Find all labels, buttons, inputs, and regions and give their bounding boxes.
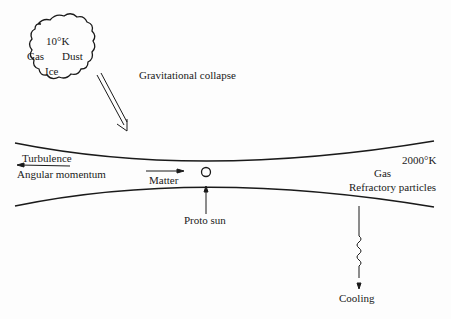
disk-gas-label: Gas [374, 168, 391, 179]
cloud-ice-label: Ice [45, 66, 58, 77]
cloud-dust-label: Dust [62, 51, 83, 62]
angular-momentum-label: Angular momentum [17, 169, 106, 180]
cloud-gas-label: Gas [27, 51, 44, 62]
matter-label: Matter [149, 175, 178, 186]
proto-sun-pointer-icon [204, 186, 208, 214]
disk-temperature-label: 2000°K [402, 155, 436, 166]
cloud-temperature-label: 10°K [46, 36, 69, 47]
gravitational-collapse-label: Gravitational collapse [139, 70, 236, 81]
turbulence-label: Turbulence [22, 153, 72, 164]
collapse-arrow-icon [97, 73, 127, 131]
solar-nebula-diagram: 10°K Gas Dust Ice Gravitational collapse… [0, 0, 451, 319]
disk-upper-edge [15, 141, 434, 161]
cooling-label: Cooling [339, 293, 374, 304]
refractory-particles-label: Refractory particles [349, 182, 436, 193]
proto-sun-label: Proto sun [184, 215, 226, 226]
proto-sun-icon [202, 168, 211, 177]
matter-arrow-icon [146, 169, 184, 173]
cooling-arrow-icon [357, 206, 361, 289]
